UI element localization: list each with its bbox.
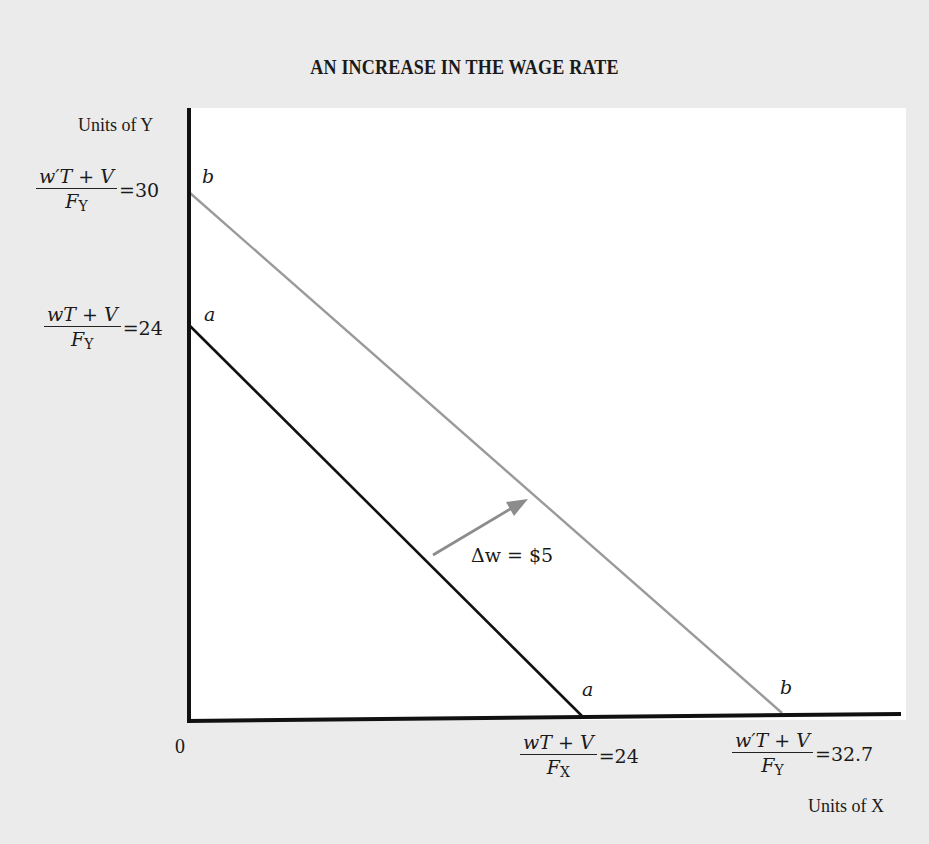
y-axis-label: Units of Y (78, 115, 153, 136)
origin-label: 0 (175, 735, 185, 758)
y-intercept-a-label: wT + V FY =24 (44, 303, 163, 352)
equals-value: =30 (119, 179, 159, 201)
equals-value: =32.7 (815, 743, 873, 765)
equals-value: =24 (123, 317, 163, 339)
point-a-x: a (582, 678, 593, 700)
point-b-y: b (202, 165, 214, 187)
point-b-x: b (780, 676, 792, 698)
x-axis (187, 714, 901, 721)
numerator: w′T + V (36, 165, 117, 189)
arrowhead-icon (506, 499, 528, 516)
point-a-y: a (204, 303, 215, 325)
budget-line-b (190, 193, 782, 713)
budget-line-a (190, 326, 582, 716)
x-axis-label: Units of X (808, 796, 884, 817)
x-intercept-b-label: w′T + V FY =32.7 (732, 729, 873, 778)
delta-w-annotation: Δw = $5 (471, 544, 553, 566)
x-intercept-a-label: wT + V FX =24 (520, 731, 639, 780)
equals-value: =24 (599, 745, 639, 767)
y-intercept-b-label: w′T + V FY =30 (36, 165, 159, 214)
